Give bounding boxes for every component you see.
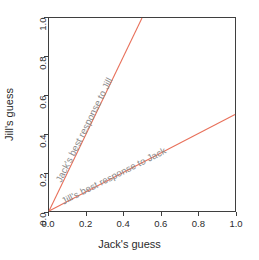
- ytick-label: 1.0: [37, 18, 48, 60]
- plot-lines: [49, 18, 235, 211]
- xtick-label: 0.6: [146, 218, 176, 229]
- ytick-label: 0.6: [37, 96, 48, 138]
- chart-figure: Jack's best response to Jill Jill's best…: [0, 0, 259, 260]
- xtick-mark: [236, 212, 237, 216]
- y-axis-title: Jill's guess: [2, 17, 16, 212]
- ytick-label: 0.4: [37, 135, 48, 177]
- xtick-mark: [198, 212, 199, 216]
- xtick-mark: [86, 212, 87, 216]
- ytick-label: 0.8: [37, 57, 48, 99]
- x-axis-title: Jack's guess: [0, 238, 259, 250]
- plot-panel: [48, 17, 236, 212]
- xtick-label: 1.0: [221, 218, 251, 229]
- xtick-mark: [48, 212, 49, 216]
- xtick-label: 0.4: [108, 218, 138, 229]
- xtick-mark: [123, 212, 124, 216]
- xtick-label: 0.8: [183, 218, 213, 229]
- xtick-label: 0.2: [71, 218, 101, 229]
- ytick-label: 0.2: [37, 174, 48, 216]
- xtick-mark: [161, 212, 162, 216]
